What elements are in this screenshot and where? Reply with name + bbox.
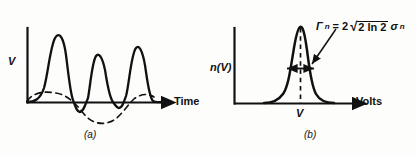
sigma-symbol: σ [390, 21, 397, 32]
panel-b-center-tick-label: V [296, 108, 303, 119]
coefficient-two: 2 [342, 21, 348, 32]
panel-a-caption: (a) [84, 130, 96, 140]
panel-a-y-axis-label: V [8, 56, 15, 67]
panel-a: V Time (a) [0, 0, 208, 155]
panel-a-pulse-train [27, 35, 162, 112]
panel-b: n(V) Volts V (b) Γn = 2 √ 2 ln 2 σn [208, 0, 416, 155]
figure-container: V Time (a) [0, 0, 416, 155]
panel-b-annotation-leader [312, 29, 336, 64]
panel-a-envelope-curve [27, 92, 154, 123]
panel-b-fwhm-formula: Γn = 2 √ 2 ln 2 σn [316, 20, 405, 33]
square-root-group: √ 2 ln 2 [350, 20, 388, 33]
gamma-symbol: Γ [316, 21, 323, 32]
panel-a-x-axis-label: Time [174, 96, 199, 107]
radical-sign: √ [350, 20, 357, 33]
panel-a-drawing [0, 0, 208, 155]
panel-b-caption: (b) [304, 130, 316, 140]
sigma-subscript: n [400, 23, 405, 31]
equals-sign: = [332, 21, 340, 32]
radicand: 2 ln 2 [357, 21, 388, 33]
panel-b-y-axis-label: n(V) [210, 62, 231, 73]
gamma-subscript: n [325, 23, 330, 31]
panel-b-x-axis-label: Volts [356, 96, 382, 107]
panel-b-gaussian-curve [264, 27, 334, 103]
